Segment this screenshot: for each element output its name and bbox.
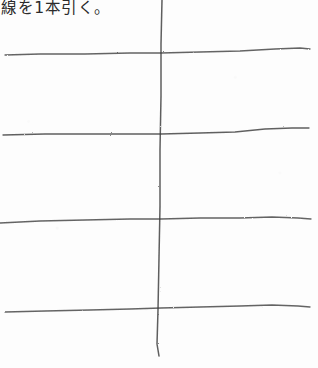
horizontal-line-group [0, 48, 311, 312]
horizontal-stroke-1 [5, 48, 310, 55]
horizontal-stroke-3 [0, 217, 311, 223]
horizontal-stroke-2 [3, 128, 309, 135]
pencil-drawing [0, 0, 318, 368]
scanned-page: 線を1本引く。 [0, 0, 318, 368]
